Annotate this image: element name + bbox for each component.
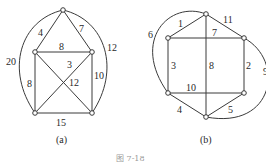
weight-a-7: 7 <box>79 23 84 34</box>
node-b-lower-right <box>242 91 247 96</box>
weight-a-10: 10 <box>94 70 104 81</box>
node-a-upper-left <box>33 50 38 55</box>
node-b-lower-left <box>166 91 171 96</box>
weight-a-3: 3 <box>67 59 72 70</box>
weight-a-8-left: 8 <box>27 78 32 89</box>
weight-b-7: 7 <box>212 27 217 38</box>
weight-b-11: 11 <box>223 14 233 25</box>
weight-b-8: 8 <box>209 60 214 71</box>
node-a-lower-left <box>33 111 38 116</box>
figure-canvas: 4 7 8 8 10 15 3 12 20 12 (a) 1 11 7 3 2 … <box>0 0 266 163</box>
weight-b-3: 3 <box>171 60 176 71</box>
weight-a-12-center: 12 <box>69 77 79 88</box>
edge-a-top-ll-curve <box>19 10 63 113</box>
node-a-upper-right <box>90 50 95 55</box>
edge-b-ur-bottom-curve <box>206 38 266 119</box>
weight-b-2: 2 <box>246 60 251 71</box>
weight-a-20: 20 <box>6 56 16 67</box>
weight-b-10: 10 <box>186 82 196 93</box>
weight-a-8-top: 8 <box>59 41 64 52</box>
weight-b-6: 6 <box>148 29 153 40</box>
node-a-top <box>61 8 66 13</box>
weight-a-15: 15 <box>56 117 66 128</box>
weight-b-1: 1 <box>178 18 183 29</box>
weight-b-4: 4 <box>177 104 182 115</box>
node-b-bottom <box>204 115 209 120</box>
graph-b: 1 11 7 3 2 8 10 4 5 6 9 (b) <box>148 11 266 146</box>
node-b-upper-right <box>242 36 247 41</box>
node-b-upper-left <box>166 36 171 41</box>
edge-a-top-ur <box>63 10 92 52</box>
edge-b-ll-bottom <box>168 93 206 117</box>
edge-b-lr-bottom <box>206 93 244 117</box>
graph-a: 4 7 8 8 10 15 3 12 20 12 (a) <box>6 8 117 146</box>
sublabel-b: (b) <box>200 134 212 146</box>
node-a-lower-right <box>90 111 95 116</box>
weight-a-4: 4 <box>38 27 43 38</box>
weight-b-9: 9 <box>263 66 266 77</box>
node-b-top <box>204 12 209 17</box>
edge-b-top-ul <box>168 14 206 38</box>
sublabel-a: (a) <box>56 134 67 146</box>
figure-caption: 图 7-18 <box>116 154 145 163</box>
weight-a-12-right: 12 <box>107 42 117 53</box>
weight-b-5: 5 <box>228 104 233 115</box>
